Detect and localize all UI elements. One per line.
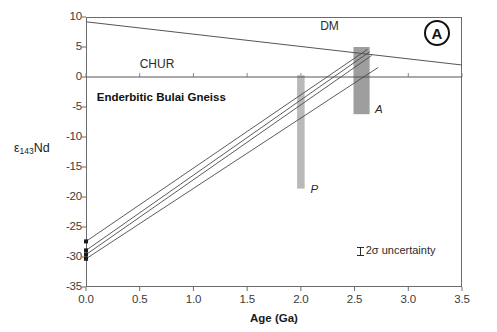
figure-panel: 1050-5-10-15-20-25-30-35 0.00.51.01.52.0… <box>0 0 497 332</box>
y-axis-title-nuclide: Nd <box>34 141 50 155</box>
x-tick-label: 1.0 <box>173 293 213 305</box>
uncertainty-bars-layer <box>297 47 370 189</box>
data-point-marker <box>84 239 88 243</box>
y-tick-label: 10 <box>40 10 82 22</box>
panel-label-badge: A <box>424 20 450 46</box>
uncertainty-bar-p <box>297 75 305 188</box>
x-tick-label: 0.5 <box>120 293 160 305</box>
annotation-bar-a-label: A <box>375 103 383 115</box>
uncertainty-text: 2σ uncertainty <box>366 244 436 256</box>
series-line-sample-evolution-1 <box>86 49 367 241</box>
series-line-sample-evolution-3 <box>86 55 372 254</box>
y-tick-label: -35 <box>40 280 82 292</box>
y-axis-title-epsilon: ε <box>14 141 20 155</box>
annotation-chur-label: CHUR <box>140 57 175 71</box>
x-tick-label: 2.5 <box>335 293 375 305</box>
annotation-uncertainty: 2σ uncertainty <box>357 244 436 256</box>
y-axis-title-subscript: 143 <box>20 146 34 156</box>
data-points-layer <box>84 239 88 260</box>
x-tick-label: 1.5 <box>227 293 267 305</box>
y-tick-label: -30 <box>40 250 82 262</box>
data-point-marker <box>84 253 88 257</box>
annotation-dm-label: DM <box>320 19 339 33</box>
error-bar-icon <box>357 247 364 256</box>
x-tick-label: 3.5 <box>442 293 482 305</box>
y-tick-label: -25 <box>40 220 82 232</box>
y-tick-label: 5 <box>40 40 82 52</box>
annotation-bar-p-label: P <box>311 183 319 195</box>
x-tick-label: 3.0 <box>388 293 428 305</box>
series-line-sample-evolution-2 <box>86 52 370 251</box>
y-tick-label: -15 <box>40 160 82 172</box>
data-point-marker <box>84 248 88 252</box>
y-tick-label: -5 <box>40 100 82 112</box>
y-tick-label: -20 <box>40 190 82 202</box>
annotation-rock-unit-label: Enderbitic Bulai Gneiss <box>97 91 226 103</box>
x-tick-label: 0.0 <box>66 293 106 305</box>
x-tick-label: 2.0 <box>281 293 321 305</box>
y-axis-title: ε143Nd <box>14 141 50 155</box>
y-tick-label: 0 <box>40 70 82 82</box>
x-axis-title: Age (Ga) <box>224 312 324 324</box>
data-point-marker <box>84 257 88 261</box>
